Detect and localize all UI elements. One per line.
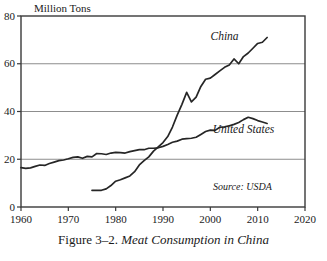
caption-number: Figure 3–2. [58,232,118,247]
y-tick-label: 60 [4,57,16,69]
figure-container: 020406080 1960197019801990200020102020 M… [0,0,327,261]
source-attribution: Source: USDA [213,181,273,192]
caption-title: Meat Consumption in China [121,232,269,247]
x-tick-label: 2000 [199,213,222,225]
y-tick-label: 80 [4,10,16,22]
x-tick-label: 1980 [105,213,128,225]
y-tick-label: 40 [4,105,16,117]
y-tick-label: 0 [10,201,16,213]
y-tick-label: 20 [4,153,16,165]
y-axis-ticks: 020406080 [4,10,21,213]
series-label-united-states: United States [213,123,275,135]
series-label-china: China [210,30,238,42]
x-tick-label: 1960 [10,213,33,225]
meat-consumption-chart: 020406080 1960197019801990200020102020 M… [0,0,327,261]
x-tick-label: 1970 [57,213,80,225]
y-axis-label: Million Tons [34,2,91,14]
x-tick-label: 1990 [152,213,175,225]
x-tick-label: 2020 [294,213,317,225]
figure-caption: Figure 3–2. Meat Consumption in China [0,232,327,248]
x-tick-label: 2010 [247,213,270,225]
x-axis-ticks: 1960197019801990200020102020 [10,207,317,225]
